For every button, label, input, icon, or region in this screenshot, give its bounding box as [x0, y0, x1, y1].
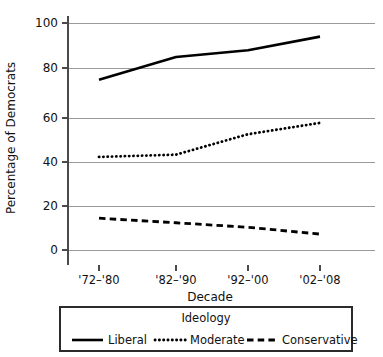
line-chart: 100 80 60 40 20 0 Percentage of Democrat…: [0, 0, 383, 357]
legend-item-moderate[interactable]: Moderate: [155, 333, 245, 347]
y-tick-label-40: 40: [43, 155, 58, 169]
series-line-moderate: [99, 123, 320, 157]
x-tick-label-1: '72–'80: [78, 273, 119, 287]
x-tick-labels: '72–'80 '82–'90 '92–'00 '02–'08: [78, 273, 340, 287]
legend: Ideology Liberal Moderate Conservative: [60, 307, 358, 351]
series-line-liberal: [99, 37, 320, 80]
y-tick-label-80: 80: [43, 61, 58, 75]
x-tick-label-4: '02–'08: [299, 273, 340, 287]
series-lines: [99, 37, 320, 234]
gridlines: [68, 23, 375, 250]
x-tick-label-3: '92–'00: [227, 273, 268, 287]
y-axis: [62, 16, 68, 265]
y-tick-label-0: 0: [50, 243, 58, 257]
y-tick-label-100: 100: [35, 16, 58, 30]
x-tick-label-2: '82–'90: [155, 273, 196, 287]
y-tick-labels: 100 80 60 40 20 0: [35, 16, 58, 257]
legend-label-liberal: Liberal: [108, 333, 147, 347]
series-line-conservative: [99, 218, 320, 234]
legend-label-moderate: Moderate: [190, 333, 245, 347]
legend-label-conservative: Conservative: [282, 333, 358, 347]
x-axis-title: Decade: [187, 290, 233, 304]
legend-item-conservative[interactable]: Conservative: [247, 333, 358, 347]
legend-title: Ideology: [181, 311, 230, 325]
y-tick-label-20: 20: [43, 199, 58, 213]
legend-item-liberal[interactable]: Liberal: [72, 333, 147, 347]
chart-canvas: 100 80 60 40 20 0 Percentage of Democrat…: [0, 0, 383, 357]
x-axis: [99, 265, 320, 271]
y-axis-title: Percentage of Democrats: [4, 62, 18, 214]
y-tick-label-60: 60: [43, 111, 58, 125]
